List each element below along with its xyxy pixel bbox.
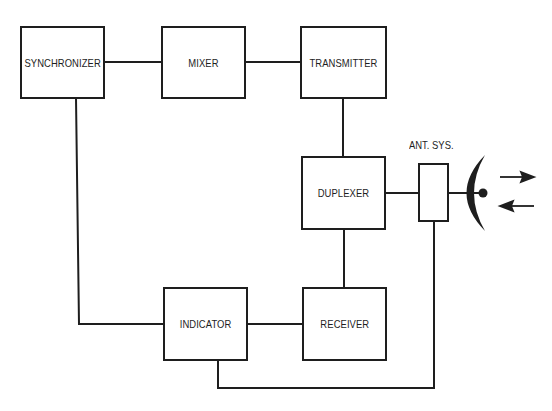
indicator-label: INDICATOR: [180, 318, 232, 330]
synchronizer-block: SYNCHRONIZER: [20, 26, 105, 99]
synchronizer-label: SYNCHRONIZER: [24, 57, 100, 69]
receiver-label: RECEIVER: [320, 318, 369, 330]
receiver-block: RECEIVER: [302, 287, 387, 361]
antenna-feed-dot: [479, 189, 488, 198]
duplexer-block: DUPLEXER: [301, 156, 386, 230]
mixer-block: MIXER: [161, 26, 246, 99]
incoming-arrow-icon: [500, 201, 513, 211]
duplexer-label: DUPLEXER: [318, 187, 369, 199]
antenna-system-label: ANT. SYS.: [409, 139, 454, 151]
transmitter-block: TRANSMITTER: [300, 26, 387, 99]
mixer-label: MIXER: [188, 57, 218, 69]
antenna-system-block: [418, 163, 449, 222]
outgoing-arrow-icon: [521, 172, 534, 182]
transmitter-label: TRANSMITTER: [310, 57, 378, 69]
line-synchronizer-indicator: [76, 98, 163, 324]
indicator-block: INDICATOR: [163, 287, 248, 361]
